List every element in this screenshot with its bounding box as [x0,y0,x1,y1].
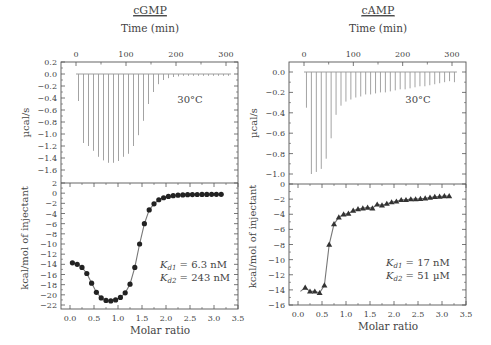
svg-text:−6: −6 [45,220,57,229]
right-panel: cAMPTime (min)01002003000.0−0.2−0.4−0.6−… [247,4,472,332]
svg-text:0.0: 0.0 [64,314,77,323]
svg-text:1.5: 1.5 [136,314,149,323]
svg-text:−18: −18 [40,281,57,290]
kd-annotation: Kd2 = 243 nM [159,272,230,285]
svg-text:−4: −4 [273,210,285,219]
svg-text:1.0: 1.0 [340,310,353,319]
svg-text:200: 200 [168,50,183,59]
svg-text:−0.2: −0.2 [266,88,285,97]
svg-text:−1.0: −1.0 [38,130,57,139]
svg-text:0.2: 0.2 [44,58,57,67]
panel-title: cAMP [362,4,395,17]
svg-text:0: 0 [73,50,78,59]
svg-text:−14: −14 [268,286,285,295]
svg-text:3.0: 3.0 [208,314,221,323]
molar-ratio-axis-label: Molar ratio [358,320,418,332]
svg-text:0: 0 [280,180,285,189]
thermogram [304,72,457,174]
svg-text:−22: −22 [40,301,57,310]
svg-text:0.0: 0.0 [272,68,285,77]
ucal-axis-label: µcal/s [248,108,259,138]
plot-frame [289,62,466,305]
svg-text:−14: −14 [40,260,57,269]
svg-text:−12: −12 [40,250,57,259]
svg-text:−0.6: −0.6 [38,106,57,115]
svg-text:−4: −4 [45,210,57,219]
molar-ratio-axis-label: Molar ratio [130,324,190,336]
thermogram [76,74,231,163]
svg-text:300: 300 [218,50,233,59]
svg-text:−1.4: −1.4 [38,154,57,163]
svg-text:0: 0 [52,189,57,198]
svg-text:2.5: 2.5 [184,314,197,323]
svg-text:−0.4: −0.4 [38,94,57,103]
svg-text:100: 100 [346,50,361,59]
svg-text:−10: −10 [40,240,57,249]
svg-text:200: 200 [395,50,410,59]
svg-text:0.0: 0.0 [44,70,57,79]
svg-text:−0.2: −0.2 [38,82,57,91]
svg-text:3.5: 3.5 [232,314,245,323]
kd-annotation: Kd1 = 6.3 nM [159,259,227,272]
svg-text:−1.2: −1.2 [38,142,57,151]
svg-text:−0.8: −0.8 [38,118,57,127]
svg-text:2.0: 2.0 [160,314,173,323]
panel-title: cGMP [133,4,167,17]
svg-text:−1.6: −1.6 [38,166,57,175]
temperature-label: 30°C [177,94,203,105]
svg-text:−16: −16 [40,271,57,280]
svg-text:2.5: 2.5 [412,310,425,319]
svg-text:−8: −8 [45,230,57,239]
svg-text:−8: −8 [273,241,285,250]
svg-text:−6: −6 [273,225,285,234]
svg-text:−16: −16 [268,301,285,310]
svg-text:100: 100 [118,50,133,59]
svg-text:3.5: 3.5 [460,310,473,319]
svg-text:−2: −2 [273,195,285,204]
kd-annotation: Kd1 = 17 nM [385,257,450,270]
svg-text:0.0: 0.0 [292,310,305,319]
itc-figure: cGMPTime (min)01002003000.20.0−0.2−0.4−0… [0,0,491,345]
svg-text:3.0: 3.0 [436,310,449,319]
kd-annotation: Kd2 = 51 µM [385,270,450,283]
svg-text:−0.8: −0.8 [266,150,285,159]
svg-text:−20: −20 [40,291,57,300]
svg-text:−10: −10 [268,256,285,265]
svg-text:2: 2 [52,179,57,188]
time-axis-label: Time (min) [349,22,407,34]
kcal-axis-label: kcal/mol of injectant [247,185,258,289]
svg-text:−0.6: −0.6 [266,129,285,138]
temperature-label: 30°C [405,94,431,105]
time-axis-label: Time (min) [121,22,179,34]
svg-text:2.0: 2.0 [388,310,401,319]
svg-text:0: 0 [301,50,306,59]
svg-text:−1.0: −1.0 [266,170,285,179]
svg-text:1.0: 1.0 [112,314,125,323]
kcal-axis-label: kcal/mol of injectant [19,186,30,290]
svg-text:1.5: 1.5 [364,310,377,319]
svg-text:300: 300 [444,50,459,59]
svg-text:−0.4: −0.4 [266,109,285,118]
svg-text:−12: −12 [268,271,285,280]
left-panel: cGMPTime (min)01002003000.20.0−0.2−0.4−0… [19,4,244,336]
svg-text:0.5: 0.5 [88,314,101,323]
svg-text:−2: −2 [45,199,57,208]
svg-text:0.5: 0.5 [316,310,329,319]
ucal-axis-label: µcal/s [20,108,31,138]
